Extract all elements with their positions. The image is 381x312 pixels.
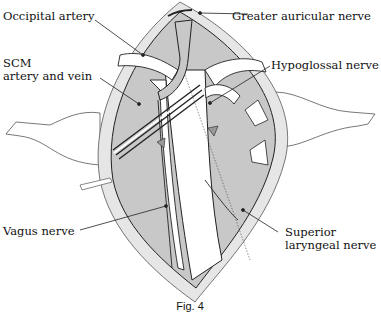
label-scm-line1: SCM [3, 56, 32, 70]
left-retracted-flap [6, 112, 100, 165]
figure-caption: Fig. 4 [176, 300, 204, 312]
right-retracted-flap [275, 92, 375, 147]
label-superior-line2: laryngeal nerve [285, 238, 376, 252]
label-scm-line2: artery and vein [3, 69, 93, 83]
label-occipital-artery: Occipital artery [3, 9, 95, 23]
label-superior-line1: Superior [285, 225, 337, 239]
label-vagus-nerve: Vagus nerve [2, 224, 75, 238]
anatomy-diagram: Occipital artery SCM artery and vein Vag… [0, 0, 381, 312]
label-hypoglossal-nerve: Hypoglossal nerve [271, 58, 379, 72]
label-greater-auricular-nerve: Greater auricular nerve [232, 9, 371, 23]
